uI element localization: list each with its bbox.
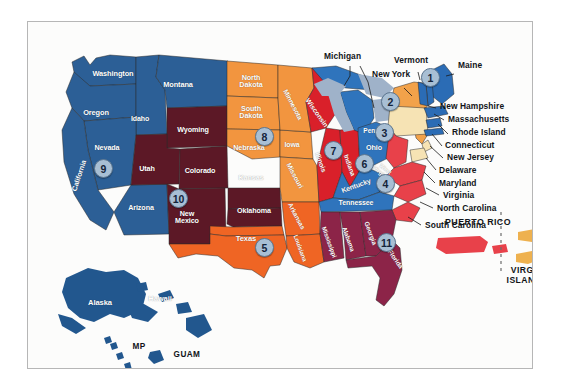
region-badge-7[interactable]: 7: [324, 141, 343, 160]
callout-connecticut: Connecticut: [445, 140, 495, 150]
map-frame: .st{ stroke:#2b2b2b; stroke-width:.5; st…: [27, 21, 533, 369]
callout-maryland: Maryland: [439, 178, 477, 188]
virgin-island-st-thomas-shape: [518, 228, 533, 242]
callout-delaware: Delaware: [439, 165, 477, 175]
callout-vermont: Vermont: [394, 55, 428, 65]
region-11-shapes: [320, 210, 402, 306]
callout-new-hampshire: New Hampshire: [440, 101, 504, 111]
callout-michigan: Michigan: [324, 51, 361, 61]
label-guam: GUAM: [168, 350, 206, 359]
region-badge-5[interactable]: 5: [255, 238, 274, 257]
virgin-island-st-croix-shape: [516, 250, 533, 264]
region-badge-6[interactable]: 6: [355, 154, 374, 173]
label-puerto-rico: PUERTO RICO: [433, 217, 523, 227]
label-virgin-islands: VIRGIN ISLANDS: [492, 266, 533, 286]
puerto-rico-shape: [436, 236, 488, 254]
callout-virginia: Virginia: [443, 190, 474, 200]
region-badge-10[interactable]: 10: [169, 189, 188, 208]
region-badge-9[interactable]: 9: [94, 159, 113, 178]
region-badge-11[interactable]: 11: [377, 233, 396, 252]
region-badge-3[interactable]: 3: [375, 123, 394, 142]
vieques-shape: [492, 244, 508, 254]
callout-new-jersey: New Jersey: [447, 152, 494, 162]
callout-north-carolina: North Carolina: [437, 203, 497, 213]
callout-maine: Maine: [458, 60, 482, 70]
region-badge-2[interactable]: 2: [381, 92, 400, 111]
callout-massachusetts: Massachusetts: [448, 114, 509, 124]
region-badge-4[interactable]: 4: [376, 174, 395, 193]
callout-new-york: New York: [372, 70, 410, 79]
region-badge-1[interactable]: 1: [421, 68, 440, 87]
callout-rhode-island: Rhode Island: [452, 127, 506, 137]
label-northern-mariana-islands: MP: [126, 342, 152, 351]
region-badge-8[interactable]: 8: [255, 127, 274, 146]
